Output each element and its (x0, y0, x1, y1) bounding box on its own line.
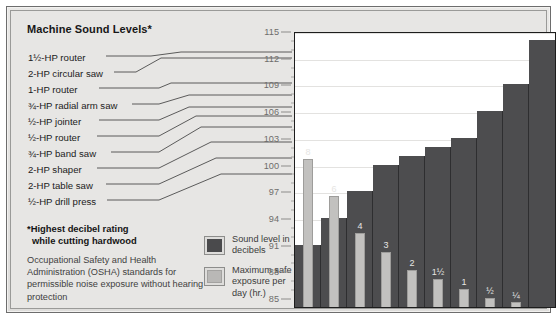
chart-figure: Machine Sound Levels* 1½-HP router 2-HP … (0, 0, 557, 319)
footnote-line-1: *Highest decibel rating (27, 223, 129, 234)
figure-card: Machine Sound Levels* 1½-HP router 2-HP … (6, 6, 551, 313)
osha-note: Occupational Safety and Health Administr… (27, 254, 205, 303)
bar-column[interactable]: ½ (477, 33, 503, 307)
y-axis-tick-100 (281, 165, 291, 166)
y-axis-tick-label-112: 112 (264, 54, 279, 64)
safe-exposure-value-label: 1½ (432, 267, 445, 277)
legend-swatch-dark-icon (204, 236, 225, 255)
machine-label-3: ¾-HP radial arm saw (28, 100, 117, 111)
safe-exposure-value-label: 1 (461, 277, 466, 287)
y-axis-tick-label-106: 106 (264, 107, 279, 117)
y-axis-tick-97 (281, 192, 291, 193)
safe-exposure-bar: 4 (355, 233, 366, 307)
y-axis-tick-label-94: 94 (269, 214, 279, 224)
y-axis-tick-label-109: 109 (264, 80, 279, 90)
safe-exposure-bar: ½ (485, 298, 496, 307)
y-axis: 1151121091061031009794918885 (251, 25, 297, 300)
safe-exposure-bar: 1½ (433, 279, 444, 307)
sound-level-bar (477, 111, 503, 307)
safe-exposure-value-label: ½ (486, 286, 494, 296)
y-axis-tick-115 (281, 32, 291, 33)
safe-exposure-bar: 1 (459, 289, 470, 308)
machine-label-6: ¾-HP band saw (28, 148, 96, 159)
y-axis-tick-label-97: 97 (269, 187, 279, 197)
machine-label-0: 1½-HP router (28, 52, 85, 63)
bar-column[interactable] (529, 33, 555, 307)
y-axis-tick-112 (281, 58, 291, 59)
legend-swatch-light-icon (204, 267, 225, 286)
safe-exposure-bar: ¼ (511, 302, 522, 307)
machine-label-8: 2-HP table saw (28, 180, 93, 191)
machine-label-9: ½-HP drill press (28, 196, 96, 207)
safe-exposure-bar: 2 (407, 270, 418, 307)
safe-exposure-value-label: 8 (305, 147, 310, 157)
safe-exposure-value-label: ¼ (512, 290, 520, 300)
plot-area: 864321½1½¼ (294, 32, 556, 308)
figure-card-inner: Machine Sound Levels* 1½-HP router 2-HP … (10, 10, 547, 309)
machine-label-4: ½-HP jointer (28, 116, 81, 127)
bar-column[interactable]: 4 (347, 33, 373, 307)
bar-column[interactable]: 2 (399, 33, 425, 307)
safe-exposure-bar: 3 (381, 252, 392, 308)
y-axis-tick-91 (281, 245, 291, 246)
sound-level-bar (529, 40, 555, 307)
y-axis-tick-106 (281, 112, 291, 113)
footnote-line-2: while cutting hardwood (27, 235, 207, 247)
machine-label-7: 2-HP shaper (28, 164, 82, 175)
bar-group: 864321½1½¼ (295, 33, 555, 307)
y-axis-tick-103 (281, 138, 291, 139)
safe-exposure-value-label: 4 (357, 221, 362, 231)
bar-column[interactable]: ¼ (503, 33, 529, 307)
bar-column[interactable]: 1 (451, 33, 477, 307)
sound-level-bar (503, 84, 529, 307)
safe-exposure-value-label: 6 (331, 184, 336, 194)
y-axis-tick-label-85: 85 (269, 294, 279, 304)
safe-exposure-value-label: 2 (409, 258, 414, 268)
safe-exposure-bar: 6 (329, 196, 340, 307)
y-axis-tick-88 (281, 272, 291, 273)
y-axis-tick-label-100: 100 (264, 161, 279, 171)
machine-label-5: ½-HP router (28, 132, 80, 143)
y-axis-tick-label-91: 91 (269, 241, 279, 251)
bar-column[interactable]: 8 (295, 33, 321, 307)
bar-column[interactable]: 1½ (425, 33, 451, 307)
page-title: Machine Sound Levels* (27, 23, 152, 35)
machine-label-1: 2-HP circular saw (28, 68, 103, 79)
machine-label-2: 1-HP router (28, 84, 77, 95)
y-axis-tick-94 (281, 218, 291, 219)
y-axis-tick-85 (281, 299, 291, 300)
y-axis-tick-109 (281, 85, 291, 86)
footnote: *Highest decibel rating while cutting ha… (27, 223, 207, 246)
safe-exposure-bar: 8 (303, 159, 314, 307)
bar-column[interactable]: 6 (321, 33, 347, 307)
y-axis-tick-label-103: 103 (264, 134, 279, 144)
bar-column[interactable]: 3 (373, 33, 399, 307)
safe-exposure-value-label: 3 (383, 240, 388, 250)
y-axis-tick-label-115: 115 (264, 27, 279, 37)
y-axis-tick-label-88: 88 (269, 267, 279, 277)
